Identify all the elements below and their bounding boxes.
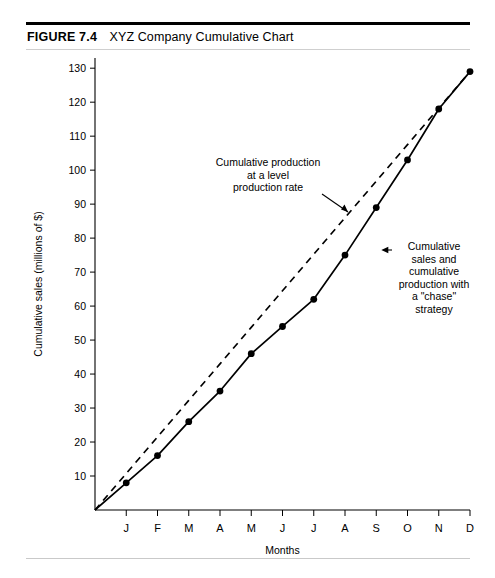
x-tick-label: D: [466, 522, 474, 534]
x-axis-ticks: JFMAMJJASOND: [124, 510, 475, 534]
data-point-marker: [154, 452, 161, 459]
y-axis-title: Cumulative sales (millions of $): [32, 211, 44, 356]
data-point-marker: [404, 157, 411, 164]
x-tick-label: J: [280, 522, 286, 534]
data-point-marker: [123, 479, 130, 486]
y-tick-label: 120: [68, 96, 86, 108]
level-production-annotation-line: Cumulative production: [216, 156, 321, 168]
x-tick-label: A: [341, 522, 349, 534]
y-tick-label: 80: [74, 232, 86, 244]
data-point-marker: [435, 106, 442, 113]
chase-strategy-annotation-line: Cumulative: [408, 240, 461, 252]
y-tick-label: 100: [68, 164, 86, 176]
x-tick-label: N: [435, 522, 443, 534]
y-tick-label: 90: [74, 198, 86, 210]
data-point-marker: [373, 204, 380, 211]
chart-plot-area: 102030405060708090100110120130 JFMAMJJAS…: [0, 0, 495, 578]
y-tick-label: 20: [74, 436, 86, 448]
data-point-marker: [467, 68, 474, 75]
y-tick-label: 130: [68, 62, 86, 74]
x-tick-label: J: [311, 522, 317, 534]
data-point-marker: [185, 418, 192, 425]
data-point-marker: [310, 296, 317, 303]
y-tick-label: 70: [74, 266, 86, 278]
data-point-marker: [342, 252, 349, 259]
chase-strategy-annotation-line: a "chase": [412, 290, 457, 302]
y-tick-label: 50: [74, 334, 86, 346]
y-tick-label: 110: [69, 130, 86, 142]
chase-strategy-annotation-line: sales and: [412, 253, 457, 265]
level-production-annotation-line: at a level: [247, 169, 289, 181]
x-tick-label: J: [124, 522, 130, 534]
annotation-arrowhead: [341, 205, 348, 213]
x-tick-label: F: [154, 522, 161, 534]
level-production-annotation-line: production rate: [233, 181, 303, 193]
x-tick-label: M: [247, 522, 256, 534]
x-tick-label: M: [184, 522, 193, 534]
y-tick-label: 60: [74, 300, 86, 312]
chase-strategy-annotation-line: production with: [399, 278, 470, 290]
figure-bottom-rule: [26, 558, 470, 559]
data-point-marker: [279, 323, 286, 330]
x-tick-label: A: [216, 522, 224, 534]
cumulative-chart-svg: 102030405060708090100110120130 JFMAMJJAS…: [0, 0, 495, 578]
x-tick-label: O: [403, 522, 412, 534]
y-tick-label: 10: [74, 470, 86, 482]
chase-strategy-annotation-line: strategy: [415, 303, 453, 315]
annotation-arrowhead: [381, 247, 388, 254]
y-axis-ticks: 102030405060708090100110120130: [68, 62, 95, 482]
y-tick-label: 40: [74, 368, 86, 380]
data-point-marker: [217, 388, 224, 395]
x-tick-label: S: [373, 522, 380, 534]
data-point-marker: [248, 350, 255, 357]
y-tick-label: 30: [74, 402, 86, 414]
chase-strategy-annotation-line: cumulative: [409, 265, 459, 277]
chart-annotation-layer: Cumulative productionat a levelproductio…: [216, 156, 470, 315]
figure-container: FIGURE 7.4 XYZ Company Cumulative Chart …: [0, 0, 495, 578]
x-axis-title: Months: [265, 544, 299, 556]
